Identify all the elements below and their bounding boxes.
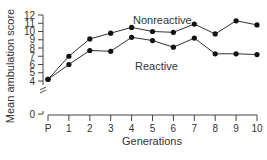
y-axis: 0456789101112 <box>24 10 46 120</box>
data-point <box>87 48 92 53</box>
data-point <box>87 36 92 41</box>
data-point <box>66 54 71 59</box>
x-tick-label: 10 <box>251 123 263 134</box>
x-axis: P12345678910 <box>45 115 263 134</box>
series-label-nonreactive: Nonreactive <box>133 14 192 26</box>
data-point <box>192 21 197 26</box>
data-point <box>192 36 197 41</box>
data-point <box>254 52 259 57</box>
data-point <box>45 77 50 82</box>
data-point <box>234 18 239 23</box>
y-axis-label: Mean ambulation score <box>4 9 16 123</box>
data-point <box>150 29 155 34</box>
series-nonreactive <box>45 18 259 82</box>
data-point <box>129 35 134 40</box>
data-point <box>66 62 71 67</box>
series-group <box>45 18 259 82</box>
data-point <box>150 38 155 43</box>
x-tick-label: 3 <box>108 123 114 134</box>
x-axis-label: Generations <box>122 135 182 147</box>
data-point <box>213 31 218 36</box>
y-tick-label: 0 <box>29 109 35 120</box>
data-point <box>171 45 176 50</box>
x-tick-label: 1 <box>66 123 72 134</box>
x-tick-label: 7 <box>192 123 198 134</box>
x-tick-label: 4 <box>129 123 135 134</box>
x-tick-label: 5 <box>150 123 156 134</box>
series-label-reactive: Reactive <box>135 60 178 72</box>
x-tick-label: P <box>45 123 52 134</box>
data-point <box>108 31 113 36</box>
data-point <box>213 51 218 56</box>
data-point <box>171 30 176 35</box>
data-point <box>254 22 259 27</box>
data-point <box>234 51 239 56</box>
series-reactive <box>45 35 259 82</box>
x-tick-label: 9 <box>233 123 239 134</box>
data-point <box>108 49 113 54</box>
y-tick-label: 12 <box>24 10 36 21</box>
x-tick-label: 2 <box>87 123 93 134</box>
line-chart: 0456789101112 P12345678910 Mean ambulati… <box>0 0 267 160</box>
x-tick-label: 8 <box>212 123 218 134</box>
x-tick-label: 6 <box>171 123 177 134</box>
